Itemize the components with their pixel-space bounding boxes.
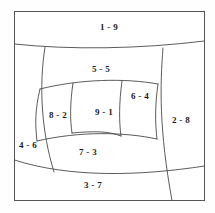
outer-frame [15, 12, 205, 201]
partition-diagram: 1 - 9 5 - 5 6 - 4 8 - 2 9 - 1 2 - 8 4 - … [0, 0, 215, 213]
partition-svg [0, 0, 215, 213]
